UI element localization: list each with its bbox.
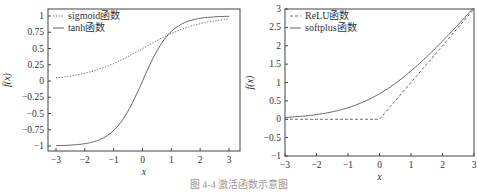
y-tick-label: 1: [276, 78, 281, 88]
y-tick-label: −0.5: [264, 133, 281, 143]
legend-entry: tanh函数: [68, 21, 105, 33]
x-tick-label: 1: [169, 155, 174, 165]
x-tick-label: −2: [311, 160, 321, 170]
y-tick-label: 2: [276, 41, 281, 51]
y-tick-label: −1: [34, 141, 44, 151]
y-tick-label: −0.75: [22, 125, 44, 135]
x-tick-label: 2: [198, 155, 203, 165]
y-tick-label: −1: [271, 151, 281, 161]
y-tick-label: 0: [276, 114, 281, 124]
y-tick-label: 1.5: [269, 59, 281, 69]
legend-entry: ReLU函数: [305, 9, 349, 21]
y-tick-label: 0: [39, 76, 44, 86]
x-tick-label: 2: [440, 160, 445, 170]
y-tick-label: 0.5: [32, 44, 44, 54]
y-tick-label: 3: [276, 4, 281, 14]
x-tick-label: 1: [409, 160, 414, 170]
chart-relu-softplus: −3−2−10123−1−0.500.511.522.53xf(x)ReLU函数…: [244, 4, 477, 182]
y-tick-label: −0.5: [27, 109, 44, 119]
x-tick-label: 3: [227, 155, 232, 165]
x-tick-label: 0: [140, 155, 145, 165]
figure-caption: 图 4-4 激活函数示意图: [0, 176, 478, 191]
x-tick-label: 0: [377, 160, 382, 170]
x-tick-label: −1: [343, 160, 353, 170]
chart-sigmoid-tanh: −3−2−10123−1−0.75−0.5−0.2500.250.50.751x…: [1, 9, 240, 177]
y-tick-label: 0.25: [27, 60, 44, 70]
y-tick-label: 1: [39, 11, 44, 21]
x-tick-label: −3: [51, 155, 61, 165]
x-tick-label: −2: [80, 155, 90, 165]
y-tick-label: 0.75: [27, 27, 44, 37]
charts-canvas: −3−2−10123−1−0.75−0.5−0.2500.250.50.751x…: [0, 0, 478, 192]
x-tick-label: −3: [280, 160, 290, 170]
series-line: [56, 16, 229, 145]
y-axis-label: f(x): [1, 72, 13, 87]
y-tick-label: −0.25: [22, 92, 44, 102]
y-tick-label: 0.5: [269, 96, 281, 106]
x-tick-label: −1: [109, 155, 119, 165]
legend-entry: sigmoid函数: [68, 9, 120, 21]
y-tick-label: 2.5: [269, 22, 281, 32]
y-axis-label: f(x): [244, 75, 256, 90]
legend-entry: softplus函数: [305, 21, 357, 33]
x-tick-label: 3: [472, 160, 477, 170]
